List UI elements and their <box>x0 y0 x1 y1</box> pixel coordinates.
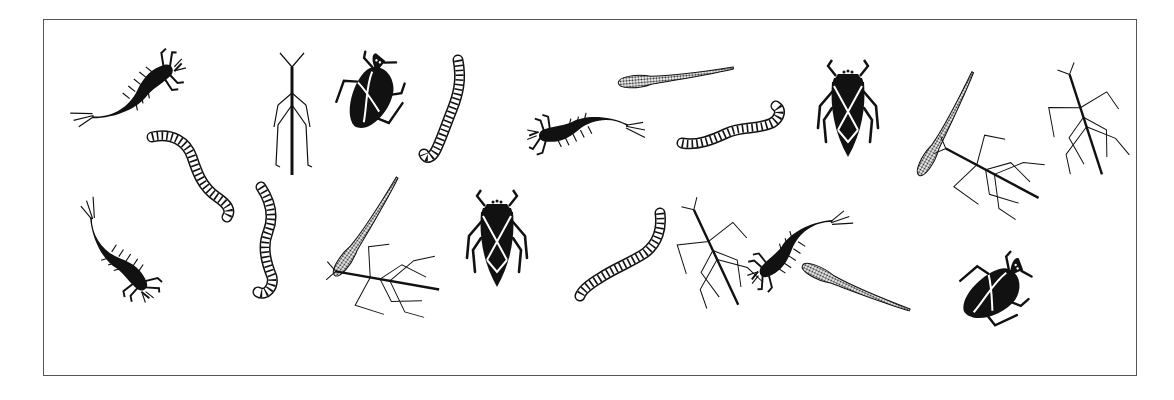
worm-icon <box>206 182 326 302</box>
giant-water-bug-figure <box>457 187 537 297</box>
giant-water-bug-icon <box>457 187 537 297</box>
giant-water-bug-figure <box>808 57 888 167</box>
worm-icon <box>386 50 506 170</box>
worm-figure <box>672 68 792 188</box>
worm-figure <box>386 50 506 170</box>
larva-figure <box>526 102 650 159</box>
walking-stick-figure <box>315 210 454 349</box>
worm-icon <box>672 68 792 188</box>
worm-figure <box>206 182 326 302</box>
giant-water-bug-icon <box>808 57 888 167</box>
larva-icon <box>526 102 650 159</box>
water-strider-icon <box>257 50 327 180</box>
walking-stick-icon <box>315 210 454 349</box>
water-strider-figure <box>257 50 327 180</box>
